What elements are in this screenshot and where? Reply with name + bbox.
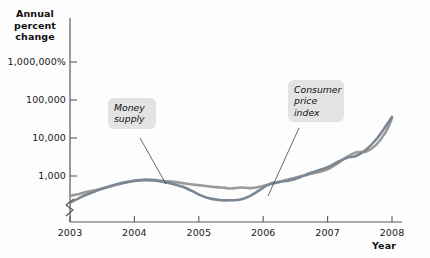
x-tick-label-4: 2007 (306, 227, 350, 238)
x-tick-label-3: 2006 (241, 227, 285, 238)
chart-canvas (0, 0, 430, 258)
x-tick-label-5: 2008 (370, 227, 414, 238)
x-tick-label-2: 2005 (177, 227, 221, 238)
y-tick-label-3: 1,000 (0, 170, 66, 181)
x-tick-label-1: 2004 (112, 227, 156, 238)
y-tick-label-1: 100,000 (0, 94, 66, 105)
callout-leader-lines (140, 128, 299, 196)
data-series-group (70, 117, 392, 203)
y-tick-label-0: 1,000,000% (0, 56, 66, 67)
callout-money-supply: Money supply (108, 98, 156, 129)
callout-consumer-price-index: Consumer price index (288, 80, 344, 122)
y-tick-label-2: 10,000 (0, 132, 66, 143)
chart-figure: Annual percent change Year 1,000,000%100… (0, 0, 430, 258)
x-tick-label-0: 2003 (48, 227, 92, 238)
leader-money-supply (140, 138, 166, 184)
leader-cpi (268, 128, 299, 196)
y-axis-title: Annual percent change (6, 8, 64, 43)
x-axis-title: Year (372, 240, 420, 252)
